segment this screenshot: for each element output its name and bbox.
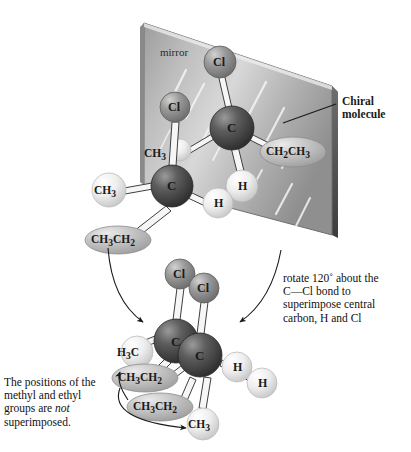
caption-part-2: superimposed. <box>4 416 71 428</box>
rotate-arrow-left <box>108 248 143 322</box>
rotate-annotation: rotate 120˚ about the C—Cl bond to super… <box>283 272 409 325</box>
chirality-figure: mirror Chiral molecule Cl C H CH2CH3 Cl … <box>0 0 411 452</box>
mirror-label: mirror <box>160 46 188 58</box>
chiral-molecule-label-line2: molecule <box>342 108 385 121</box>
caption-emphasis-not: not <box>55 402 70 414</box>
label-carbon-back: C <box>171 334 180 350</box>
label-methyl-left: CH3 <box>94 184 116 199</box>
label-hydrogen: H <box>238 179 247 194</box>
chiral-molecule-label-line1: Chiral <box>342 95 374 108</box>
label-ethyl-right: CH2CH3 <box>266 145 310 160</box>
label-carbon-front: C <box>195 348 204 364</box>
label-hydrogen-a: H <box>233 360 242 375</box>
rotate-arrow-right <box>240 250 281 322</box>
label-ethyl-lower-bottom: CH3CH2 <box>133 400 177 415</box>
label-chlorine: Cl <box>213 55 225 70</box>
label-hydrogen-b: H <box>258 376 267 391</box>
label-hydrogen: H <box>214 196 223 211</box>
label-methyl-bottom: CH3 <box>188 418 210 433</box>
label-carbon: C <box>167 178 176 194</box>
caption-part-1: The positions of the methyl and ethyl gr… <box>4 376 96 414</box>
label-ethyl-left: CH3CH2 <box>91 233 135 248</box>
label-chlorine-back: Cl <box>173 267 185 282</box>
label-methyl-upper: CH3 <box>144 147 166 162</box>
label-chlorine: Cl <box>168 100 180 115</box>
not-superimposed-caption: The positions of the methyl and ethyl gr… <box>4 376 128 429</box>
label-chlorine-front: Cl <box>197 281 209 296</box>
label-methyl-left-bottom: H3C <box>117 346 139 361</box>
label-carbon: C <box>227 120 236 136</box>
